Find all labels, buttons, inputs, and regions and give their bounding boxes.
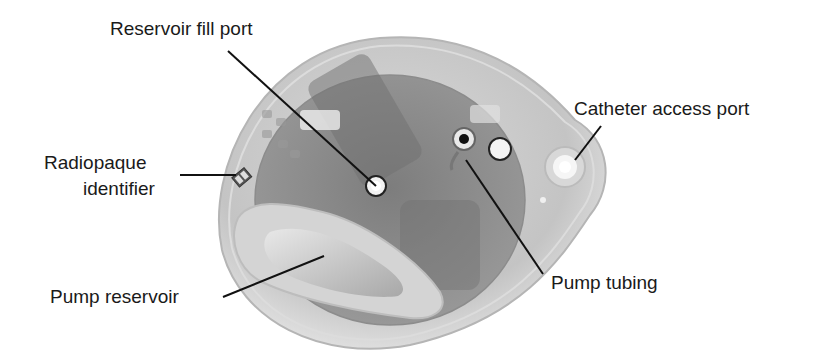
label-pump-reservoir: Pump reservoir <box>50 286 179 308</box>
label-catheter-access-port: Catheter access port <box>574 98 749 120</box>
label-reservoir-fill-port: Reservoir fill port <box>110 18 253 40</box>
label-radiopaque-identifier-line1: Radiopaque <box>44 152 146 174</box>
side-port <box>489 138 511 160</box>
label-radiopaque-identifier-line2: identifier <box>83 178 155 200</box>
label-pump-tubing: Pump tubing <box>551 272 658 294</box>
pump-diagram: Reservoir fill port Radiopaque identifie… <box>0 0 828 360</box>
